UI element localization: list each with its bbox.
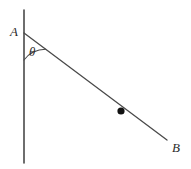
point-marker-dot xyxy=(117,107,124,114)
geometry-diagram-canvas: A B θ xyxy=(0,0,191,169)
vertex-label-a: A xyxy=(9,24,18,39)
geometry-diagram-svg: A B θ xyxy=(0,0,191,169)
vertex-label-b: B xyxy=(172,140,180,155)
angle-label-theta: θ xyxy=(29,44,36,59)
diagram-background xyxy=(0,0,191,169)
